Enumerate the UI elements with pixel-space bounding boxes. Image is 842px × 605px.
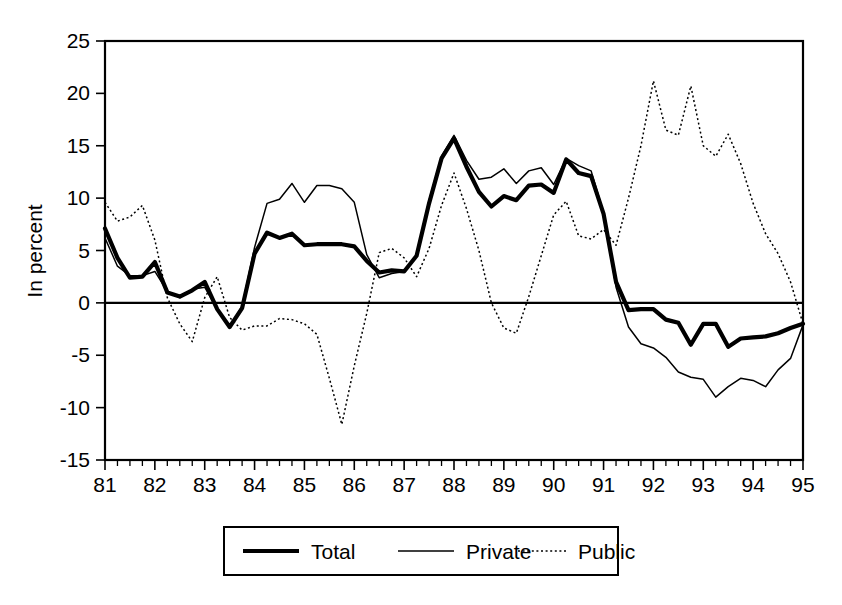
x-tick-label: 85 — [293, 473, 316, 496]
x-tick-label: 82 — [143, 473, 166, 496]
plot-frame — [105, 41, 803, 460]
y-tick-label: 0 — [78, 291, 90, 314]
y-tick-label: -15 — [60, 448, 90, 471]
x-tick-label: 91 — [592, 473, 615, 496]
y-axis-ticks — [96, 41, 105, 460]
y-tick-label: 5 — [78, 239, 90, 262]
x-tick-label: 89 — [492, 473, 515, 496]
legend-label-public: Public — [578, 540, 635, 563]
x-axis-ticks — [105, 460, 803, 470]
y-tick-label: 15 — [67, 134, 90, 157]
x-tick-label: 90 — [542, 473, 565, 496]
x-tick-label: 93 — [692, 473, 715, 496]
x-axis-tick-labels: 818283848586878889909192939495 — [93, 473, 814, 496]
y-tick-label: 10 — [67, 186, 90, 209]
legend-label-private: Private — [466, 540, 531, 563]
y-axis-title: In percent — [23, 204, 46, 298]
chart-legend: Total Private Public — [224, 527, 635, 575]
chart-figure: -15-10-50510152025 818283848586878889909… — [0, 0, 842, 605]
x-tick-label: 84 — [243, 473, 267, 496]
y-tick-label: 20 — [67, 81, 90, 104]
y-tick-label: -10 — [60, 396, 90, 419]
y-tick-label: -5 — [71, 343, 90, 366]
x-tick-label: 86 — [343, 473, 366, 496]
y-axis-tick-labels: -15-10-50510152025 — [60, 29, 90, 471]
x-tick-label: 92 — [642, 473, 665, 496]
series-line-public — [105, 81, 803, 425]
line-chart: -15-10-50510152025 818283848586878889909… — [0, 0, 842, 605]
x-tick-label: 83 — [193, 473, 216, 496]
series-line-private — [105, 135, 803, 397]
legend-label-total: Total — [311, 540, 355, 563]
series-line-total — [105, 138, 803, 346]
x-tick-label: 94 — [741, 473, 765, 496]
y-tick-label: 25 — [67, 29, 90, 52]
x-tick-label: 87 — [392, 473, 415, 496]
data-series-group — [105, 81, 803, 425]
x-tick-label: 88 — [442, 473, 465, 496]
x-tick-label: 81 — [93, 473, 116, 496]
x-tick-label: 95 — [791, 473, 814, 496]
